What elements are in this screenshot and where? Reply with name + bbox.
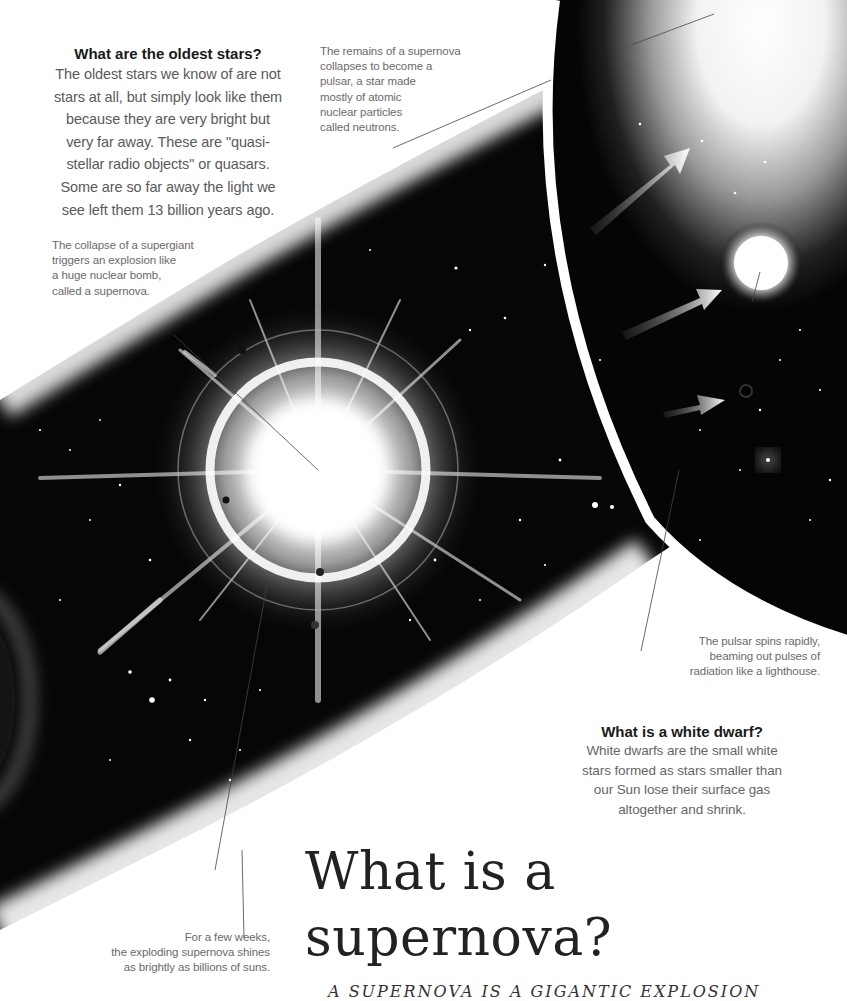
- caption-text: The remains of a supernova collapses to …: [320, 44, 510, 135]
- body-line: Some are so far away the light we: [60, 179, 275, 195]
- body-line: altogether and shrink.: [618, 802, 746, 817]
- body-line: The oldest stars we know of are not: [55, 66, 280, 82]
- white-dwarf-heading: What is a white dwarf?: [566, 722, 798, 741]
- pulsar-spins-caption: The pulsar spins rapidly, beaming out pu…: [600, 634, 820, 680]
- body-line: stellar radio objects" or quasars.: [66, 156, 269, 172]
- oldest-stars-heading: What are the oldest stars?: [42, 44, 294, 63]
- caption-line: a huge nuclear bomb,: [52, 269, 161, 281]
- body-line: very far away. These are "quasi-: [66, 134, 270, 150]
- oldest-stars-body: The oldest stars we know of are not star…: [42, 63, 294, 221]
- caption-line: mostly of atomic: [320, 91, 401, 103]
- white-dwarf-body: White dwarfs are the small white stars f…: [566, 741, 798, 819]
- body-line: see left them 13 billion years ago.: [62, 202, 275, 218]
- caption-line: radiation like a lighthouse.: [690, 665, 820, 677]
- caption-line: For a few weeks,: [185, 931, 270, 943]
- white-dwarf-section: What is a white dwarf? White dwarfs are …: [566, 722, 798, 819]
- pulsar-remains-caption: The remains of a supernova collapses to …: [320, 44, 510, 135]
- caption-text: The collapse of a supergiant triggers an…: [52, 238, 242, 299]
- body-line: stars formed as stars smaller than: [582, 763, 782, 778]
- caption-line: pulsar, a star made: [320, 75, 416, 87]
- page-title: What is a supernova?: [305, 838, 612, 970]
- caption-line: The collapse of a supergiant: [52, 239, 194, 251]
- caption-line: beaming out pulses of: [710, 650, 820, 662]
- body-line: because they are very bright but: [66, 111, 270, 127]
- body-line: stars at all, but simply look like them: [54, 89, 282, 105]
- supergiant-caption: The collapse of a supergiant triggers an…: [52, 238, 242, 299]
- caption-line: called a supernova.: [52, 285, 150, 297]
- oldest-stars-section: What are the oldest stars? The oldest st…: [42, 44, 294, 221]
- caption-text: For a few weeks, the exploding supernova…: [20, 930, 270, 976]
- body-line: White dwarfs are the small white: [586, 743, 777, 758]
- caption-text: The pulsar spins rapidly, beaming out pu…: [600, 634, 820, 680]
- caption-line: The pulsar spins rapidly,: [699, 635, 820, 647]
- few-weeks-caption: For a few weeks, the exploding supernova…: [20, 930, 270, 976]
- caption-line: The remains of a supernova: [320, 45, 461, 57]
- black-hole-dot: [740, 385, 752, 397]
- body-line: our Sun lose their surface gas: [594, 782, 770, 797]
- intro-subhead: A SUPERNOVA IS A GIGANTIC EXPLOSION: [328, 982, 760, 1001]
- caption-line: called neutrons.: [320, 121, 400, 133]
- caption-line: as brightly as billions of suns.: [124, 961, 270, 973]
- caption-line: triggers an explosion like: [52, 254, 176, 266]
- title-line-1: What is a: [305, 841, 556, 901]
- caption-line: collapses to become a: [320, 60, 432, 72]
- caption-line: nuclear particles: [320, 106, 402, 118]
- caption-line: the exploding supernova shines: [111, 946, 270, 958]
- title-line-2: supernova?: [305, 907, 612, 967]
